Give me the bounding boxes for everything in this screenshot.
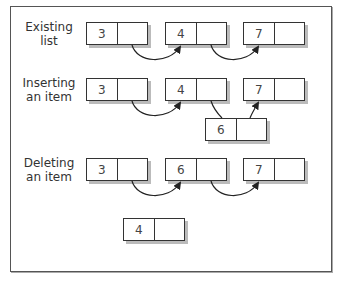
pointer-arrow	[250, 103, 258, 118]
pointer-arrow	[132, 181, 180, 196]
pointer-arrow	[211, 101, 222, 118]
pointer-arrow	[132, 101, 180, 116]
pointer-arrow	[132, 45, 180, 60]
pointer-arrows	[0, 0, 339, 282]
pointer-arrow	[211, 181, 258, 196]
pointer-arrow	[211, 45, 258, 60]
